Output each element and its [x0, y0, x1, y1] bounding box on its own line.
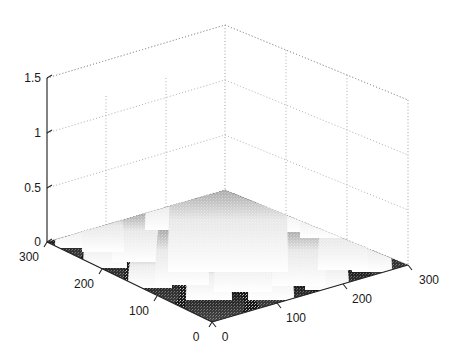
z-tick-label-0: 0: [34, 235, 41, 249]
z-tick-label-3: 1.5: [24, 71, 41, 85]
figure-3d-surface-plot: 1.5 1 0.5 0 300 200 100 0 0 100 200 300: [0, 0, 455, 353]
z-axis-tick-labels: 1.5 1 0.5 0: [24, 71, 41, 249]
x-tick-label-0: 0: [193, 330, 200, 344]
z-tick-label-2: 1: [34, 126, 41, 140]
y-tick-label-0: 0: [222, 330, 229, 344]
x-tick-label-100: 100: [129, 304, 149, 318]
y-tick-label-200: 200: [352, 292, 372, 306]
z-tick-label-1: 0.5: [24, 181, 41, 195]
x-tick-label-300: 300: [19, 250, 39, 264]
x-tick-label-200: 200: [74, 277, 94, 291]
surface-plot-canvas: 1.5 1 0.5 0 300 200 100 0 0 100 200 300: [0, 0, 455, 353]
y-tick-label-100: 100: [286, 311, 306, 325]
z-tick-marks: [47, 75, 52, 242]
y-tick-label-300: 300: [419, 273, 439, 287]
